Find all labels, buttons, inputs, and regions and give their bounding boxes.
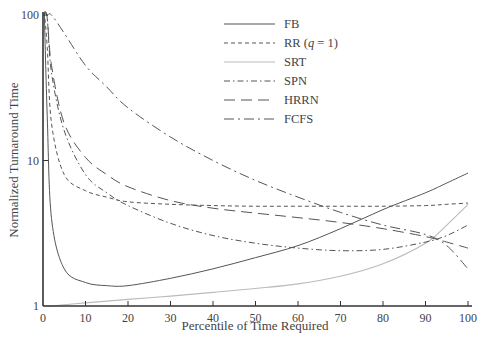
series-spn [44,12,468,251]
series-fcfs [44,12,468,269]
x-tick-label: 10 [80,311,92,325]
legend-label: FB [284,17,299,31]
legend-label: HRRN [284,93,319,107]
legend-label: SRT [284,55,307,69]
plot-lines [44,12,468,306]
y-tick-label: 10 [27,154,39,168]
y-ticks: 110100 [21,8,48,313]
legend: FBRR (q = 1)SRTSPNHRRNFCFS [224,17,338,126]
legend-label: SPN [284,74,307,88]
series-rr-q-1 [44,12,468,206]
legend-label: FCFS [284,112,313,126]
x-tick-label: 70 [335,311,347,325]
y-axis-label: Normalized Turnaround Time [6,82,21,238]
series-srt [44,204,468,306]
y-tick-label: 1 [33,299,39,313]
x-tick-label: 20 [122,311,134,325]
x-tick-label: 80 [377,311,389,325]
x-tick-label: 90 [420,311,432,325]
chart: 0102030405060708090100 110100 Percentile… [0,0,486,349]
x-axis-label: Percentile of Time Required [182,318,329,333]
x-tick-label: 30 [165,311,177,325]
series-hrrn [44,12,468,248]
x-tick-label: 100 [459,311,477,325]
y-tick-label: 100 [21,8,39,22]
series-fb [44,12,468,286]
x-tick-label: 0 [40,311,46,325]
legend-label: RR (q = 1) [284,36,338,50]
